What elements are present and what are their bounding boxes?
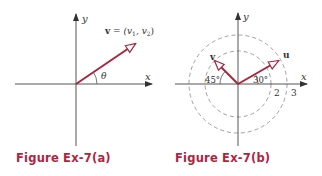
vector-v-label: v <box>209 52 216 62</box>
caption-figure-a: Figure Ex-7(a) <box>16 151 111 165</box>
figure-a: x y θ v = (v1, v2) <box>15 13 154 146</box>
angle-label-30: 30° <box>253 75 268 85</box>
angle-arc-v <box>220 71 225 84</box>
y-axis-label-a: y <box>81 13 88 24</box>
x-axis-label-a: x <box>145 71 151 82</box>
angle-label-45: 45° <box>205 75 220 85</box>
circle-label-3: 3 <box>291 88 297 98</box>
x-axis-label-b: x <box>301 71 307 82</box>
vector-u-label: u <box>283 50 290 60</box>
figure-canvas: x y θ v = (v1, v2) x y u v 30° 45° 2 3 <box>0 0 322 176</box>
angle-arc-a <box>94 72 98 84</box>
figure-b: x y u v 30° 45° 2 3 <box>175 11 307 146</box>
vector-label-a: v = (v1, v2) <box>104 26 154 37</box>
caption-figure-b: Figure Ex-7(b) <box>175 151 270 165</box>
angle-label-theta: θ <box>101 71 107 81</box>
y-axis-label-b: y <box>242 11 249 22</box>
circle-label-2: 2 <box>274 88 280 98</box>
